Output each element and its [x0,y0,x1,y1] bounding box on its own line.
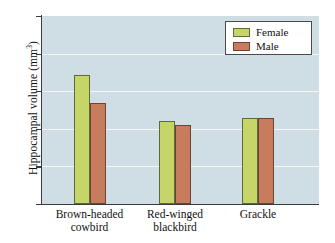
x-axis-label: Brown-headedcowbird [56,208,124,234]
x-axis-label-line: cowbird [56,221,124,234]
bar-female [74,75,90,204]
y-axis-title-superscript: 3 [25,45,34,49]
legend: Female Male [225,21,312,55]
legend-label-male: Male [256,40,279,52]
y-tick-mark [36,91,42,92]
bar-male [90,103,106,204]
x-axis-label-line: blackbird [147,221,203,234]
y-axis-title: Hippocampal volume (mm3) [27,13,39,203]
x-axis-line [41,204,319,205]
bar-male [258,118,274,204]
y-tick-mark [36,54,42,55]
x-axis-label-line: Brown-headed [56,208,124,221]
x-axis-label: Grackle [240,208,276,221]
y-tick-mark [36,129,42,130]
bar-chart: Hippocampal volume (mm3) 1086420 Brown-h… [0,0,335,243]
legend-swatch-male-icon [233,42,250,51]
y-axis-title-paren: ) [27,41,39,45]
legend-item-female: Female [233,25,311,39]
x-axis-label-line: Grackle [240,208,276,221]
legend-label-female: Female [256,26,288,38]
y-axis-line [41,15,42,205]
bar-male [175,125,191,204]
bar-female [242,118,258,204]
x-axis-label: Red-wingedblackbird [147,208,203,234]
legend-item-male: Male [233,39,311,53]
legend-swatch-female-icon [233,28,250,37]
y-tick-mark [36,204,42,205]
y-axis-title-text: Hippocampal volume (mm [27,49,39,175]
y-tick-mark [36,166,42,167]
x-axis-label-line: Red-winged [147,208,203,221]
y-tick-mark [36,16,42,17]
bar-female [159,121,175,204]
